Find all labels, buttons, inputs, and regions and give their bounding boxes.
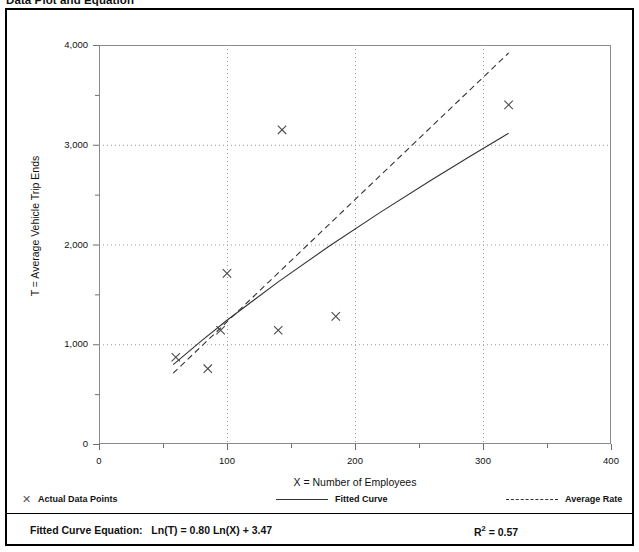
data-point-marker [332,312,340,320]
data-point-marker [274,326,282,334]
fitted-curve-line [173,133,508,364]
r-squared-number: = 0.57 [489,526,519,538]
data-point-marker [278,126,286,134]
legend-item-actual-data-points: ✕ Actual Data Points [22,490,118,508]
x-marker-icon: ✕ [22,494,31,505]
r-squared-label: R [474,526,482,538]
legend-item-fitted-curve: Fitted Curve [276,490,388,508]
legend-label: Actual Data Points [38,494,118,504]
data-point-marker [504,101,512,109]
y-tick-label: 4,000 [42,39,88,50]
chart-legend: ✕ Actual Data Points Fitted Curve Averag… [14,490,626,510]
data-plot-page: Data Plot and Equation 01,0002,0003,0004… [0,0,639,552]
data-point-marker [204,364,212,372]
x-tick-label: 300 [463,455,503,466]
x-tick-label: 100 [207,455,247,466]
equation-label: Fitted Curve Equation: [30,524,143,536]
solid-line-icon [276,499,328,500]
legend-label: Average Rate [565,494,622,504]
equation-row: Fitted Curve Equation: Ln(T) = 0.80 Ln(X… [14,520,626,546]
r-squared-value: R2 = 0.57 [474,524,518,538]
y-tick-label: 1,000 [42,338,88,349]
y-tick-label: 3,000 [42,139,88,150]
x-tick-label: 200 [335,455,375,466]
x-tick-label: 0 [79,455,119,466]
y-tick-label: 0 [42,438,88,449]
equation-expression: Ln(T) = 0.80 Ln(X) + 3.47 [151,524,272,536]
dashed-line-icon [506,499,558,500]
equation-divider [7,513,632,514]
legend-item-average-rate: Average Rate [506,490,622,508]
x-tick-label: 400 [591,455,631,466]
y-tick-label: 2,000 [42,239,88,250]
fitted-curve-equation: Fitted Curve Equation: Ln(T) = 0.80 Ln(X… [30,524,272,536]
legend-label: Fitted Curve [335,494,388,504]
average-rate-line [173,53,508,373]
y-axis-label: T = Average Vehicle Trip Ends [29,76,41,376]
r-squared-exponent: 2 [482,524,486,533]
chart-canvas [0,0,639,552]
chart-area: 01,0002,0003,0004,0000100200300400 T = A… [0,0,639,552]
data-point-marker [223,269,231,277]
x-axis-label: X = Number of Employees [99,476,611,488]
